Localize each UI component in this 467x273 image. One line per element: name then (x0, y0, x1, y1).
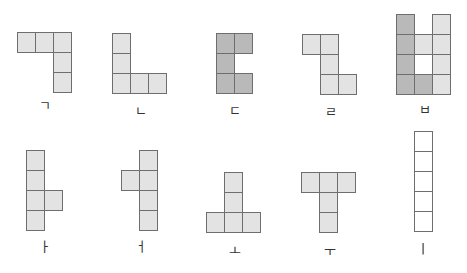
letter-label: ㅜ (315, 244, 345, 258)
tile-cell (139, 190, 158, 211)
tile-cell (121, 170, 140, 191)
tile-cell (216, 53, 235, 74)
tile-cell (302, 34, 321, 55)
tile-cell (432, 14, 451, 35)
tile-cell (216, 73, 235, 94)
tile-cell (338, 74, 357, 95)
tile-cell (139, 210, 158, 231)
tile-cell (414, 211, 433, 232)
tile-cell (206, 212, 225, 233)
tile-cell (224, 192, 243, 213)
tile-cell (242, 212, 261, 233)
letter-label: ㄷ (220, 104, 250, 118)
tile-cell (414, 171, 433, 192)
tile-cell (320, 74, 339, 95)
letter-label: ㅓ (126, 240, 156, 254)
tile-cell (148, 73, 167, 94)
tile-cell (26, 150, 45, 171)
tile-cell (414, 191, 433, 212)
tile-cell (35, 32, 54, 53)
tile-cell (432, 54, 451, 75)
tile-cell (234, 33, 253, 54)
tile-cell (396, 74, 415, 95)
tile-cell (319, 212, 338, 233)
tile-cell (396, 34, 415, 55)
letter-label: ㅏ (30, 240, 60, 254)
tile-cell (414, 34, 433, 55)
tile-cell (224, 172, 243, 193)
tile-cell (234, 73, 253, 94)
tile-cell (432, 74, 451, 95)
tile-cell (112, 33, 131, 54)
letter-label: ㄴ (126, 104, 156, 118)
tile-cell (319, 192, 338, 213)
letter-label: ㅣ (408, 242, 438, 256)
tile-cell (53, 32, 72, 53)
tile-cell (216, 33, 235, 54)
tile-cell (432, 34, 451, 55)
tile-cell (139, 150, 158, 171)
tile-cell (112, 73, 131, 94)
tile-cell (414, 151, 433, 172)
tile-cell (53, 72, 72, 93)
letter-label: ㅂ (410, 103, 440, 117)
tile-cell (319, 172, 338, 193)
tile-cell (414, 54, 433, 75)
tile-cell (301, 172, 320, 193)
tile-cell (320, 34, 339, 55)
letter-label: ㄹ (316, 105, 346, 119)
tile-cell (17, 32, 36, 53)
tile-cell (414, 131, 433, 152)
tile-cell (26, 170, 45, 191)
tile-cell (26, 190, 45, 211)
tile-cell (112, 53, 131, 74)
tile-cell (396, 54, 415, 75)
tile-cell (320, 54, 339, 75)
tile-cell (224, 212, 243, 233)
tile-cell (44, 190, 63, 211)
tile-cell (396, 14, 415, 35)
letter-label: ㄱ (30, 99, 60, 113)
tile-cell (130, 73, 149, 94)
tile-cell (337, 172, 356, 193)
tile-cell (139, 170, 158, 191)
tile-cell (414, 74, 433, 95)
letter-label: ㅗ (220, 244, 250, 258)
tile-cell (53, 52, 72, 73)
tile-cell (26, 210, 45, 231)
